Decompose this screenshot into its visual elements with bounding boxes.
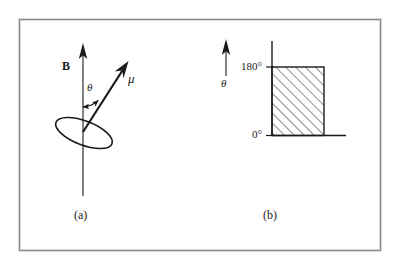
panel-caption-a: (a) [74, 209, 87, 221]
tick-label-180: 180° [241, 61, 262, 72]
magnetic-field-label: B [62, 60, 70, 72]
magnetic-moment-arrowhead [115, 61, 129, 78]
theta-axis-label: θ [221, 78, 226, 89]
figure-root: B μ θ θ 180° 0° (a) (b) [0, 0, 402, 267]
tick-label-0: 0° [252, 129, 262, 140]
figure-canvas [0, 0, 402, 267]
hatched-distribution-rectangle [272, 67, 324, 136]
angle-arc [83, 101, 98, 108]
magnetic-moment-label: μ [128, 72, 135, 85]
panel-caption-b: (b) [263, 209, 277, 221]
current-loop-ellipse [52, 111, 117, 155]
angle-label-panel-a: θ [87, 82, 92, 93]
panel-b [222, 39, 346, 136]
